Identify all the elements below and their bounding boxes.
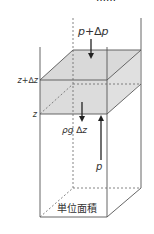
label-weight: ρg ∆z — [62, 125, 87, 135]
fluid-column-diagram: p+∆p z+∆z z ρg ∆z p 単位面積 — [0, 0, 154, 234]
label-top-pressure: p+∆p — [77, 25, 109, 38]
fluid-slab — [40, 50, 140, 114]
label-bottom-pressure: p — [95, 161, 102, 172]
label-lower-height: z — [32, 110, 38, 119]
label-upper-height: z+∆z — [17, 76, 39, 85]
label-base-area: 単位面積 — [57, 202, 97, 214]
slab-front-face — [40, 80, 107, 114]
